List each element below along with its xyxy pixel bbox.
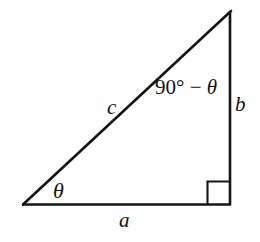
triangle-drawing [0, 0, 260, 242]
side-b-label: b [235, 94, 246, 115]
right-angle-marker-icon [208, 182, 230, 205]
complement-angle-theta: θ [207, 75, 217, 99]
side-a-label: a [119, 210, 130, 231]
complement-angle-prefix: 90° − [155, 75, 207, 99]
side-c-label: c [107, 97, 116, 118]
right-triangle-figure: θ c b a 90° − θ [0, 0, 260, 242]
hypotenuse-line-c [23, 11, 231, 205]
complement-angle-label: 90° − θ [155, 77, 217, 98]
angle-theta-label: θ [53, 180, 64, 202]
